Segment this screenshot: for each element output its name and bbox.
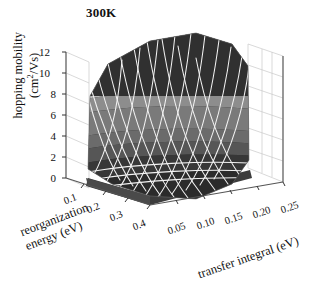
z-tick-0: 0: [36, 172, 56, 184]
z-tick-10: 10: [30, 67, 50, 79]
back-left-wall-grid: [66, 52, 89, 188]
z-axis-title-line1: hopping mobility: [11, 5, 26, 145]
figure-3d-surface-plot: 300K: [0, 0, 336, 304]
z-tick-12: 12: [30, 46, 50, 58]
z-tick-4: 4: [36, 130, 56, 142]
z-tick-2: 2: [36, 151, 56, 163]
z-tick-8: 8: [36, 88, 56, 100]
back-right-wall-grid: [248, 44, 283, 182]
z-tick-6: 6: [36, 109, 56, 121]
z-axis-ticks: [62, 52, 66, 178]
surface-plateau-cap: [80, 28, 260, 100]
